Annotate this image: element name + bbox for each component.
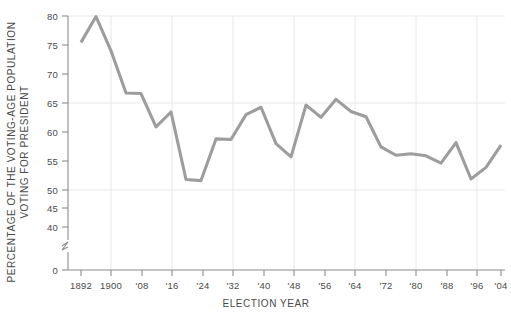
x-tick-label-1916: '16 — [166, 280, 179, 291]
x-tick-label-1988: '88 — [441, 280, 454, 291]
y-tick-label-80: 80 — [47, 11, 58, 22]
y-tick-label-60: 60 — [47, 127, 58, 138]
y-tick-label-50: 50 — [47, 185, 58, 196]
y-axis-break-icon — [62, 242, 68, 250]
x-tick-label-1948: '48 — [288, 280, 301, 291]
y-axis-title-line1: PERCENTAGE OF THE VOTING-AGE POPULATION — [6, 22, 17, 283]
x-tick-labels: 1892 1900 '08 '16 '24 '32 '40 '48 '56 '6… — [70, 280, 507, 291]
x-tick-label-1932: '32 — [227, 280, 240, 291]
x-tick-marks — [81, 270, 501, 276]
y-tick-label-0: 0 — [53, 265, 58, 276]
voter-turnout-chart: 80 75 70 65 60 55 50 45 40 0 — [0, 0, 511, 320]
x-tick-label-1996: '96 — [471, 280, 484, 291]
x-axis-title: ELECTION YEAR — [223, 298, 310, 309]
turnout-data-line — [81, 17, 501, 181]
y-tick-label-40: 40 — [47, 222, 58, 233]
x-tick-label-1900: 1900 — [100, 280, 122, 291]
x-tick-label-1908: '08 — [136, 280, 149, 291]
x-tick-label-1892: 1892 — [70, 280, 92, 291]
y-tick-label-65: 65 — [47, 98, 58, 109]
y-tick-labels: 80 75 70 65 60 55 50 45 40 0 — [47, 11, 58, 276]
x-tick-label-1964: '64 — [349, 280, 362, 291]
x-tick-label-1940: '40 — [258, 280, 271, 291]
x-tick-label-1956: '56 — [319, 280, 332, 291]
y-tick-label-70: 70 — [47, 69, 58, 80]
y-tick-marks — [62, 16, 68, 270]
x-tick-label-1980: '80 — [410, 280, 423, 291]
y-axis-title-line2: VOTING FOR PRESIDENT — [19, 85, 30, 218]
chart-svg: 80 75 70 65 60 55 50 45 40 0 — [0, 0, 511, 320]
y-tick-label-55: 55 — [47, 156, 58, 167]
x-tick-label-1924: '24 — [197, 280, 210, 291]
y-tick-label-45: 45 — [47, 203, 58, 214]
y-tick-label-75: 75 — [47, 40, 58, 51]
x-tick-label-2004: '04 — [495, 280, 508, 291]
x-tick-label-1972: '72 — [380, 280, 393, 291]
